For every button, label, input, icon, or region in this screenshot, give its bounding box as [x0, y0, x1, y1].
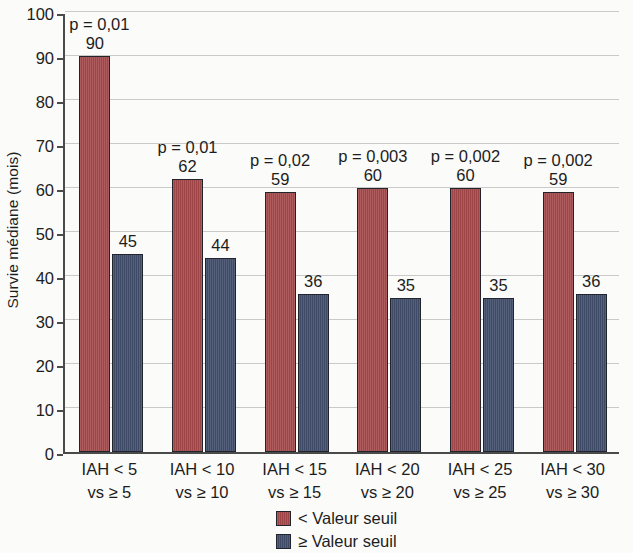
value-label-below-threshold: 60: [426, 166, 506, 185]
p-value-annotation: p = 0,01: [69, 15, 179, 34]
x-axis-category-label: IAH < 30vs ≥ 30: [526, 458, 619, 504]
x-axis-category-line2: vs ≥ 10: [156, 481, 249, 504]
gridline: [65, 99, 619, 100]
y-axis-tick-mark: [57, 454, 63, 456]
x-axis-category-line2: vs ≥ 25: [434, 481, 527, 504]
x-axis-category-line1: IAH < 5: [63, 458, 156, 481]
y-axis-tick: 100: [0, 14, 63, 15]
legend-item: < Valeur seuil: [276, 508, 397, 529]
value-label-below-threshold: 90: [55, 34, 135, 53]
bar-above-threshold: [483, 298, 514, 452]
y-axis-tick: 80: [0, 102, 63, 103]
y-axis-tick-label: 90: [36, 47, 54, 69]
plot-area: 90p = 0,014562p = 0,014459p = 0,023660p …: [63, 14, 619, 454]
y-axis-tick: 0: [0, 454, 63, 455]
y-axis-tick-label: 70: [36, 135, 54, 157]
x-axis-category-line1: IAH < 30: [526, 458, 619, 481]
chart-legend: < Valeur seuil≥ Valeur seuil: [276, 508, 397, 552]
x-axis-category-label: IAH < 20vs ≥ 20: [341, 458, 434, 504]
value-label-above-threshold: 44: [181, 236, 261, 255]
x-axis-category-label: IAH < 15vs ≥ 15: [248, 458, 341, 504]
y-axis-tick-label: 30: [36, 311, 54, 333]
bar-below-threshold: [172, 179, 203, 452]
y-axis-tick: 70: [0, 146, 63, 147]
legend-label: < Valeur seuil: [298, 509, 397, 528]
legend-label: ≥ Valeur seuil: [298, 532, 397, 551]
x-axis-category-line1: IAH < 25: [434, 458, 527, 481]
value-label-above-threshold: 45: [88, 232, 168, 251]
y-axis-tick: 30: [0, 322, 63, 323]
y-axis-ticks: 0102030405060708090100: [0, 14, 63, 454]
gridline: [65, 11, 619, 12]
bar-below-threshold: [450, 188, 481, 452]
gridline: [65, 363, 619, 364]
gridline: [65, 407, 619, 408]
y-axis-tick-label: 10: [36, 399, 54, 421]
bar-below-threshold: [543, 192, 574, 452]
value-label-above-threshold: 36: [273, 272, 353, 291]
y-axis-tick-label: 50: [36, 223, 54, 245]
x-axis-category-line2: vs ≥ 15: [248, 481, 341, 504]
bar-above-threshold: [205, 258, 236, 452]
survival-bar-chart: Survie médiane (mois) 010203040506070809…: [0, 0, 633, 553]
y-axis-tick: 90: [0, 58, 63, 59]
y-axis-tick-label: 100: [26, 3, 54, 25]
y-axis-tick-label: 40: [36, 267, 54, 289]
y-axis-tick: 60: [0, 190, 63, 191]
value-label-below-threshold: 62: [148, 157, 228, 176]
y-axis-tick: 10: [0, 410, 63, 411]
bar-below-threshold: [79, 56, 110, 452]
bar-below-threshold: [357, 188, 388, 452]
value-label-below-threshold: 59: [240, 170, 320, 189]
y-axis-tick-label: 80: [36, 91, 54, 113]
value-label-above-threshold: 36: [551, 272, 631, 291]
x-axis-category-line1: IAH < 20: [341, 458, 434, 481]
value-label-above-threshold: 35: [366, 276, 446, 295]
x-axis-category-line2: vs ≥ 20: [341, 481, 434, 504]
y-axis-tick: 20: [0, 366, 63, 367]
gridline: [65, 319, 619, 320]
x-axis-category-label: IAH < 10vs ≥ 10: [156, 458, 249, 504]
legend-swatch: [276, 534, 291, 549]
y-axis-tick-label: 20: [36, 355, 54, 377]
bar-below-threshold: [265, 192, 296, 452]
value-label-above-threshold: 35: [459, 276, 539, 295]
legend-swatch: [276, 511, 291, 526]
y-axis-tick-label: 0: [45, 443, 54, 465]
y-axis-tick: 50: [0, 234, 63, 235]
bar-above-threshold: [298, 294, 329, 452]
x-axis-category-line2: vs ≥ 30: [526, 481, 619, 504]
legend-item: ≥ Valeur seuil: [276, 531, 397, 552]
p-value-annotation: p = 0,002: [503, 151, 613, 170]
bar-above-threshold: [112, 254, 143, 452]
gridline: [65, 55, 619, 56]
x-axis-labels: IAH < 5vs ≥ 5IAH < 10vs ≥ 10IAH < 15vs ≥…: [63, 458, 619, 506]
y-axis-tick-label: 60: [36, 179, 54, 201]
value-label-below-threshold: 59: [518, 170, 598, 189]
bar-above-threshold: [390, 298, 421, 452]
x-axis-category-line1: IAH < 15: [248, 458, 341, 481]
x-axis-category-line1: IAH < 10: [156, 458, 249, 481]
bar-above-threshold: [576, 294, 607, 452]
y-axis-tick: 40: [0, 278, 63, 279]
x-axis-category-label: IAH < 25vs ≥ 25: [434, 458, 527, 504]
value-label-below-threshold: 60: [333, 166, 413, 185]
x-axis-category-line2: vs ≥ 5: [63, 481, 156, 504]
x-axis-category-label: IAH < 5vs ≥ 5: [63, 458, 156, 504]
